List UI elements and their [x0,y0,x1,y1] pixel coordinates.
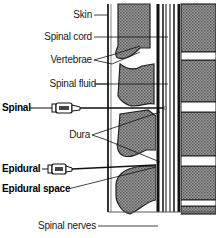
label-spinal-nerves: Spinal nerves [38,220,96,232]
spine-diagram [0,0,216,238]
label-dura: Dura [69,129,90,141]
label-skin: Skin [73,9,92,21]
label-spinal-cord: Spinal cord [44,31,92,43]
label-spinal: Spinal [2,102,31,114]
label-spinal-fluid: Spinal fluid [49,78,96,90]
vertebrae-left [116,4,156,214]
spinal-canal [156,4,181,214]
label-epidural-space: Epidural space [2,183,70,195]
label-vertebrae: Vertebrae [50,54,92,66]
label-epidural: Epidural [2,163,40,175]
